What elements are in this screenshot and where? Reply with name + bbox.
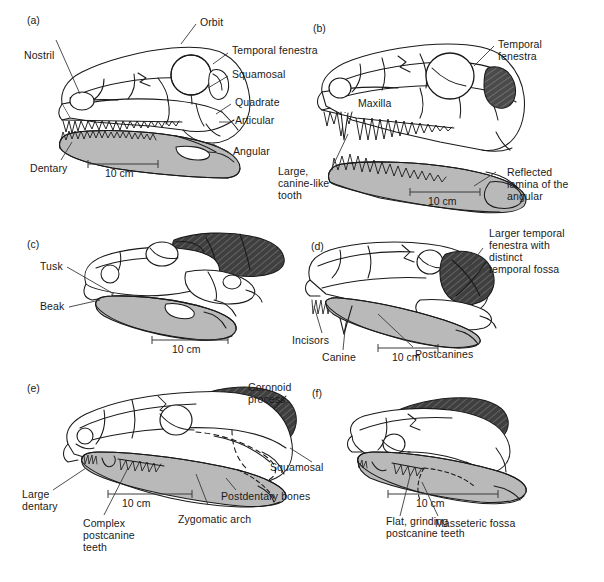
leader-e-large-dentary — [53, 468, 86, 490]
panel-c-skull — [84, 233, 284, 341]
scale-caption-a: 10 cm — [105, 167, 134, 179]
scale-caption-e: 10 cm — [122, 497, 151, 509]
label-nostril: Nostril — [24, 50, 54, 62]
panel-label-f: (f) — [312, 387, 322, 399]
label-temporal-fenestra-a: Temporal fenestra — [232, 45, 318, 57]
label-articular: Articular — [235, 115, 274, 127]
label-dentary: Dentary — [30, 163, 67, 175]
label-orbit: Orbit — [200, 17, 223, 29]
panel-a-skull — [59, 47, 250, 178]
panel-label-a: (a) — [27, 14, 40, 26]
label-canine-d: Canine — [322, 352, 356, 364]
panel-label-b: (b) — [313, 22, 326, 34]
label-maxilla: Maxilla — [358, 98, 391, 110]
scale-caption-f: 10 cm — [416, 497, 445, 509]
label-beak: Beak — [40, 301, 64, 313]
panel-b-skull — [318, 44, 527, 213]
label-tusk: Tusk — [40, 261, 63, 273]
scale-caption-c: 10 cm — [172, 343, 201, 355]
label-temporal-fenestra-b-line2: fenestra — [498, 51, 537, 63]
panel-f-skull — [348, 398, 527, 504]
label-coronoid-line2: process — [248, 394, 285, 406]
panel-label-d: (d) — [311, 240, 324, 252]
panel-d-skull — [306, 242, 497, 348]
label-zygomatic-arch: Zygomatic arch — [178, 514, 251, 526]
label-large-dentary-line2: dentary — [22, 501, 58, 513]
label-reflected-lamina-line3: angular — [507, 191, 543, 203]
label-squamosal-e: Squamosal — [270, 462, 323, 474]
synapsid-skull-figure: (a) (b) (c) (d) (e) (f) Orbit Nostril Te… — [0, 0, 604, 582]
label-quadrate: Quadrate — [235, 97, 280, 109]
label-postcanines: Postcanines — [415, 349, 473, 361]
label-canine-tooth-line3: tooth — [278, 190, 302, 202]
panel-label-c: (c) — [27, 238, 39, 250]
label-larger-fenestra-line4: temporal fossa — [489, 264, 559, 276]
scale-caption-b: 10 cm — [428, 195, 457, 207]
label-masseteric-fossa: Masseteric fossa — [435, 518, 515, 530]
leader-a-orbit — [181, 24, 196, 44]
label-incisors: Incisors — [292, 335, 329, 347]
label-complex-postcanine-line3: teeth — [83, 542, 107, 554]
panel-label-e: (e) — [27, 382, 40, 394]
label-squamosal-a: Squamosal — [232, 69, 285, 81]
scale-caption-d: 10 cm — [392, 351, 421, 363]
label-postdentary-bones: Postdentary bones — [221, 491, 310, 503]
leader-e-squamosal — [290, 448, 312, 462]
leader-d-incisors — [314, 306, 322, 333]
label-angular: Angular — [233, 146, 270, 158]
